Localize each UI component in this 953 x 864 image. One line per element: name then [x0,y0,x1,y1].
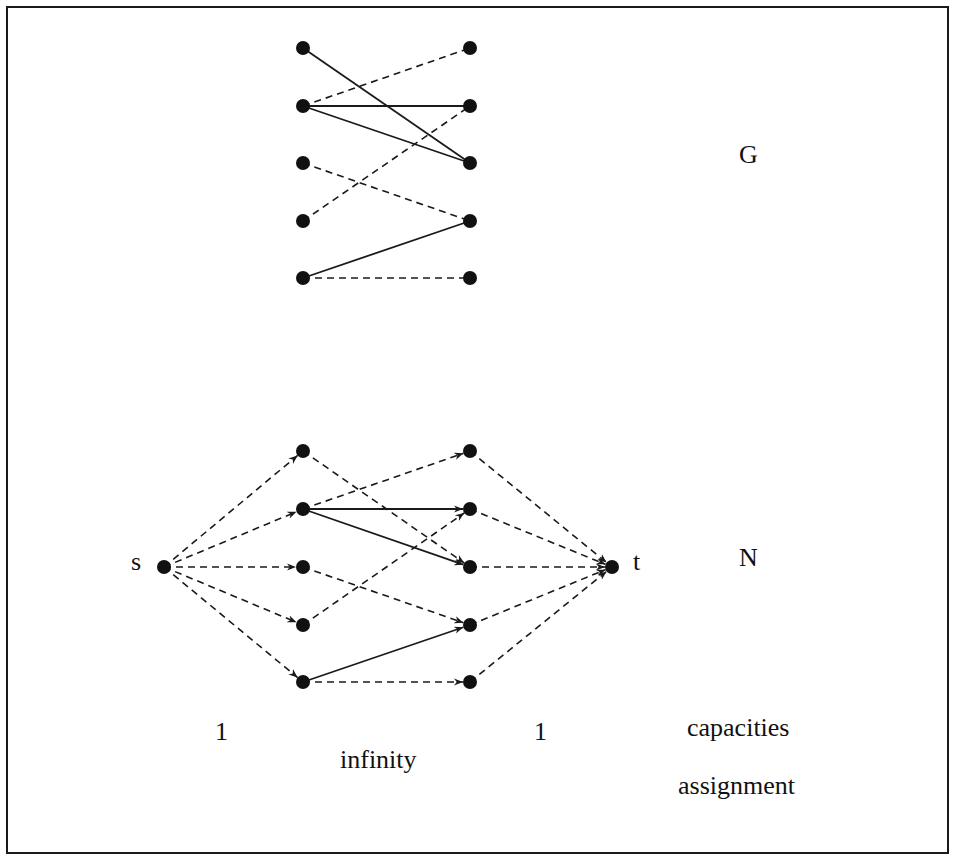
sink-label: t [633,547,641,576]
n-edge-s-L4 [164,567,297,622]
n-node-L4 [296,618,310,632]
n-edge-L5-R4 [303,627,463,682]
g-node-R4 [463,214,477,228]
capacity-source-left: 1 [215,717,228,746]
n-node-sink [605,560,619,574]
n-edge-L1-R3 [303,451,464,563]
n-node-R3 [463,560,477,574]
g-node-R5 [463,271,477,285]
caption-capacities: capacities [687,713,790,742]
network-n-edges [164,451,607,682]
g-node-L2 [296,99,310,113]
n-edge-L2-R3 [303,509,463,565]
g-node-L5 [296,271,310,285]
n-node-source [157,560,171,574]
capacity-left-right: infinity [340,745,417,774]
g-edge-L3-R4 [303,163,470,221]
n-edge-R5-t [470,571,607,682]
n-node-L5 [296,675,310,689]
diagram-canvas: G N s t 1 infinity 1 capacities assignme… [0,0,953,864]
g-edge-L4-R2 [303,106,470,221]
n-node-R4 [463,618,477,632]
g-edge-L2-R1 [303,48,470,106]
n-edge-s-L5 [164,567,298,678]
n-edge-R1-t [470,451,607,563]
g-node-R2 [463,99,477,113]
g-node-L1 [296,41,310,55]
n-edge-s-L2 [164,512,297,567]
g-node-R1 [463,41,477,55]
g-edge-L2-R3 [303,106,470,163]
g-node-R3 [463,156,477,170]
n-edge-R2-t [470,509,606,564]
n-edge-s-L1 [164,455,298,567]
n-edge-L2-R1 [303,453,463,509]
network-n-label: N [739,543,758,572]
n-node-L2 [296,502,310,516]
n-node-R2 [463,502,477,516]
g-node-L3 [296,156,310,170]
graph-g-label: G [739,140,758,169]
capacity-right-sink: 1 [534,717,547,746]
n-node-L1 [296,444,310,458]
n-node-L3 [296,560,310,574]
source-label: s [131,547,141,576]
n-node-R1 [463,444,477,458]
n-node-R5 [463,675,477,689]
n-edge-R4-t [470,570,606,625]
n-edge-L4-R2 [303,513,464,625]
n-edge-L3-R4 [303,567,463,623]
g-edge-L5-R4 [303,221,470,278]
caption-assignment: assignment [678,771,796,800]
graph-g-edges [303,48,470,278]
g-node-L4 [296,214,310,228]
